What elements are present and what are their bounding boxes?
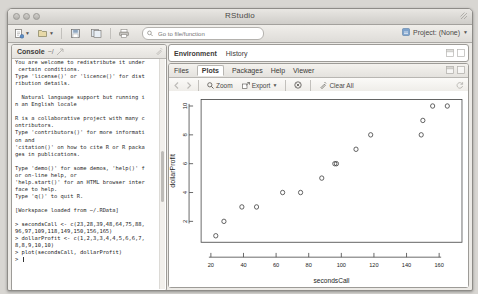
- plots-header-icons: [446, 66, 465, 74]
- console-scrollbar-thumb[interactable]: [161, 151, 164, 202]
- project-icon: [402, 28, 410, 36]
- toolbar-separator: [310, 80, 311, 91]
- search-input-wrapper[interactable]: [142, 27, 264, 40]
- refresh-icon[interactable]: [456, 81, 464, 89]
- chevron-down-icon[interactable]: ▼: [272, 83, 277, 88]
- environment-header-icons: [446, 49, 465, 57]
- x-tick-label: 140: [402, 262, 411, 268]
- plots-pane: Files Plots Packages Help Viewer: [168, 63, 469, 288]
- toolbar-separator: [61, 28, 62, 39]
- console-cursor: [23, 257, 24, 263]
- magnifier-icon: [207, 82, 214, 89]
- main-toolbar: ▼ ▼ Project: (None) ▼: [8, 25, 472, 43]
- project-selector[interactable]: Project: (None) ▼: [402, 28, 468, 36]
- export-plot-button[interactable]: Export ▼: [239, 79, 281, 92]
- console-command-1: > secondsCall <- c(23,28,39,48,64,75,88,…: [15, 221, 145, 234]
- console-path: ~/: [45, 48, 54, 55]
- data-point: [320, 176, 324, 180]
- x-tick-label: 100: [337, 262, 346, 268]
- window-title: RStudio: [8, 11, 472, 20]
- x-tick-label: 20: [208, 262, 214, 268]
- tab-viewer[interactable]: Viewer: [293, 67, 314, 74]
- search-input[interactable]: [156, 30, 259, 38]
- environment-pane: Environment History: [168, 44, 469, 62]
- pane-container: Console ~/ You are welcome to redistribu…: [8, 42, 472, 290]
- console-prompt: >: [15, 256, 22, 262]
- toolbar-separator: [198, 80, 199, 91]
- print-button[interactable]: [115, 26, 134, 41]
- minimize-icon[interactable]: [446, 49, 454, 57]
- data-point: [222, 219, 226, 223]
- clear-all-plots-label: Clear All: [329, 82, 353, 89]
- data-point: [254, 205, 258, 209]
- search-icon: [147, 30, 153, 37]
- chevron-down-icon[interactable]: ▼: [49, 31, 54, 36]
- data-point: [214, 234, 218, 238]
- left-arrow-icon[interactable]: [172, 81, 181, 90]
- console-title: Console: [12, 48, 45, 55]
- right-arrow-icon[interactable]: [184, 81, 193, 90]
- tab-history[interactable]: History: [226, 50, 248, 57]
- console-output[interactable]: You are welcome to redistribute it under…: [12, 58, 166, 291]
- plot-canvas: 20406080100120140160246810secondsCalldol…: [169, 91, 468, 287]
- data-point: [240, 205, 244, 209]
- save-all-button[interactable]: [87, 26, 106, 41]
- console-scrollbar[interactable]: [159, 59, 165, 289]
- chevron-down-icon[interactable]: ▼: [463, 30, 468, 35]
- console-header: Console ~/: [12, 45, 166, 59]
- y-tick-label: 4: [182, 190, 188, 194]
- export-plot-label: Export: [252, 82, 271, 89]
- x-tick-label: 160: [434, 262, 443, 268]
- new-file-button[interactable]: ▼: [12, 26, 33, 41]
- plots-tabs: Files Plots Packages Help Viewer: [169, 64, 468, 78]
- rstudio-window: RStudio ▼ ▼ Project: (No: [7, 8, 473, 291]
- data-point: [281, 190, 285, 194]
- toolbar-separator: [285, 80, 286, 91]
- x-tick-label: 80: [306, 262, 312, 268]
- console-command-2: > dollarProfit <- c(1,2,3,3,4,4,5,6,6,7,…: [15, 235, 145, 248]
- chevron-down-icon[interactable]: ▼: [25, 31, 30, 36]
- data-point: [354, 147, 358, 151]
- project-label: Project: (None): [413, 29, 460, 36]
- data-point: [369, 133, 373, 137]
- console-header-icons: [155, 47, 163, 55]
- y-tick-label: 2: [182, 220, 188, 223]
- zoom-plot-label: Zoom: [216, 82, 233, 89]
- remove-plot-button[interactable]: [291, 79, 305, 92]
- tab-environment[interactable]: Environment: [174, 50, 217, 57]
- x-axis-title: secondsCall: [314, 277, 350, 284]
- scatter-plot: 20406080100120140160246810secondsCalldol…: [169, 91, 468, 287]
- tab-plots[interactable]: Plots: [197, 65, 224, 76]
- y-tick-label: 8: [182, 133, 188, 136]
- x-tick-label: 120: [369, 262, 378, 268]
- save-button[interactable]: [66, 26, 85, 41]
- broom-icon[interactable]: [155, 47, 163, 55]
- data-point: [419, 133, 423, 137]
- export-icon: [242, 82, 250, 89]
- y-tick-label: 10: [182, 103, 188, 110]
- data-point: [431, 104, 435, 108]
- y-axis-title: dollarProfit: [169, 154, 176, 188]
- console-command-3: > plot(secondsCall, dollarProfit): [15, 249, 122, 255]
- minimize-icon[interactable]: [446, 66, 454, 74]
- title-bar: RStudio: [8, 9, 472, 25]
- data-point: [298, 190, 302, 194]
- maximize-icon[interactable]: [457, 49, 465, 57]
- tab-packages[interactable]: Packages: [232, 67, 263, 74]
- tab-help[interactable]: Help: [271, 67, 285, 74]
- clear-all-plots-button[interactable]: Clear All: [316, 79, 356, 92]
- open-file-button[interactable]: ▼: [35, 26, 57, 41]
- console-startup-text: You are welcome to redistribute it under…: [15, 59, 145, 213]
- remove-plot-icon: [294, 81, 302, 89]
- toolbar-separator: [110, 28, 111, 39]
- y-tick-label: 6: [182, 162, 188, 165]
- maximize-icon[interactable]: [457, 66, 465, 74]
- console-pane: Console ~/ You are welcome to redistribu…: [11, 44, 167, 291]
- zoom-plot-button[interactable]: Zoom: [204, 79, 236, 92]
- data-point: [445, 104, 449, 108]
- x-tick-label: 60: [273, 262, 279, 268]
- tab-files[interactable]: Files: [174, 67, 189, 74]
- console-popout-icon[interactable]: [56, 48, 64, 56]
- environment-tabs: Environment History: [169, 45, 468, 61]
- resize-handle-icon[interactable]: [460, 12, 468, 20]
